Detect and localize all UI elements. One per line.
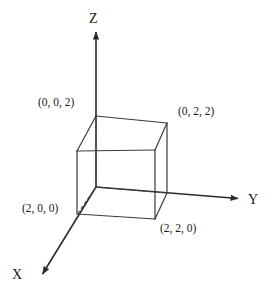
edge-bottom-right	[155, 193, 167, 219]
vertex-label-0-2-2: (0, 2, 2)	[178, 106, 214, 118]
edge-top-back	[96, 116, 167, 123]
vertex-label-0-0-2: (0, 0, 2)	[38, 97, 74, 109]
edge-top-right	[155, 123, 167, 150]
axis-label-x: X	[12, 268, 22, 282]
edge-top-left	[77, 116, 96, 151]
diagram-canvas	[0, 0, 274, 301]
axis-label-y: Y	[248, 193, 258, 207]
cube-visible-edges	[77, 116, 167, 219]
cube-hidden-edges	[78, 117, 166, 213]
vertex-label-2-2-0: (2, 2, 0)	[160, 223, 196, 235]
edge-bottom-front	[77, 214, 155, 219]
cube-coordinate-diagram: (0, 0, 2) (0, 2, 2) (2, 0, 0) (2, 2, 0) …	[0, 0, 274, 301]
vertex-label-2-0-0: (2, 0, 0)	[22, 203, 58, 215]
axis-x-line	[43, 187, 97, 274]
edge-top-front	[77, 150, 155, 151]
axis-group	[43, 32, 239, 274]
axis-label-z: Z	[89, 12, 98, 26]
